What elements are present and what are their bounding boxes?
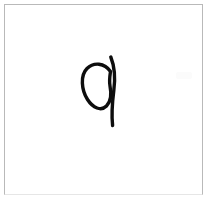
ink-layer [0,0,211,198]
glyph-stroke-group [82,57,114,126]
drawing-canvas[interactable]: Hand-drawn lowercase q-like glyph: an el… [0,0,211,198]
handwritten-glyph-svg [0,0,211,198]
glyph-loop-stroke [82,64,110,109]
